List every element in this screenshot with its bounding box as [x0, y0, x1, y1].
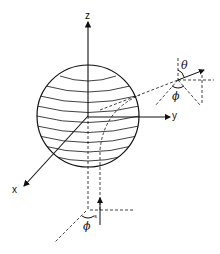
- upper-phi-label: ϕ: [172, 92, 180, 102]
- lower-small-label: s: [94, 211, 97, 221]
- dashed-lines: [55, 58, 214, 242]
- axes: [24, 22, 170, 186]
- lower-phi-label: ϕ: [83, 222, 91, 232]
- theta-label: θ: [181, 61, 188, 71]
- z-axis-label: z: [85, 11, 90, 21]
- lower-phi-arc: [82, 216, 94, 218]
- x-axis-label: x: [12, 185, 17, 195]
- x-axis: [24, 116, 88, 186]
- sphere-diagram: [0, 0, 220, 254]
- y-axis-label: y: [172, 111, 177, 121]
- upper-phi-arc: [172, 86, 184, 88]
